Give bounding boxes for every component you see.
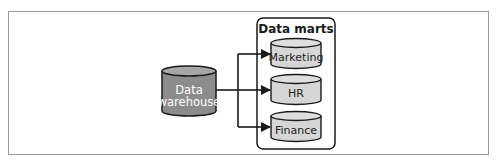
data-marts-title: Data marts — [258, 22, 333, 36]
data-warehouse-label-line2: warehouse — [158, 95, 221, 109]
mart-hr-label: HR — [288, 87, 304, 100]
connectors — [216, 54, 270, 127]
mart-marketing-cylinder: Marketing — [269, 39, 324, 69]
mart-finance-label: Finance — [275, 124, 317, 137]
data-warehouse-cylinder: Data warehouse — [158, 66, 221, 116]
mart-marketing-label: Marketing — [269, 51, 324, 64]
mart-finance-cylinder: Finance — [271, 112, 321, 142]
diagram-canvas: Data warehouse Data marts Marketing HR F… — [0, 0, 497, 163]
mart-hr-cylinder: HR — [271, 75, 321, 105]
